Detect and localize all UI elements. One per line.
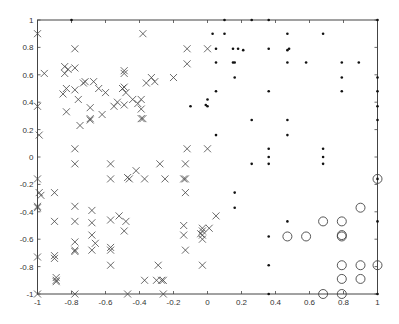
x-tick-label: 0.2 bbox=[236, 298, 248, 307]
circle-marker-icon bbox=[356, 261, 365, 270]
x-marker-icon bbox=[65, 66, 72, 73]
x-marker-icon bbox=[148, 74, 155, 81]
dot-marker-icon bbox=[267, 235, 270, 238]
x-marker-icon bbox=[213, 212, 220, 219]
dot-marker-icon bbox=[242, 49, 245, 52]
x-marker-icon bbox=[71, 218, 78, 225]
x-marker-icon bbox=[139, 30, 146, 37]
dot-marker-icon bbox=[376, 90, 379, 93]
dot-marker-icon bbox=[211, 32, 214, 35]
x-marker-icon bbox=[71, 64, 78, 71]
dot-marker-icon bbox=[267, 163, 270, 166]
y-tick-label: 0.8 bbox=[22, 43, 34, 52]
y-tick-label: 0 bbox=[29, 153, 34, 162]
x-marker-icon bbox=[133, 167, 140, 174]
x-marker-icon bbox=[199, 262, 206, 269]
x-marker-icon bbox=[88, 219, 95, 226]
dot-marker-icon bbox=[233, 191, 236, 194]
x-marker-icon bbox=[182, 175, 189, 182]
x-marker-icon bbox=[121, 101, 128, 108]
x-marker-icon bbox=[71, 160, 78, 167]
x-marker-icon bbox=[51, 189, 58, 196]
x-marker-icon bbox=[184, 45, 191, 52]
circle-marker-icon bbox=[337, 217, 346, 226]
x-tick-label: -0.6 bbox=[99, 298, 113, 307]
y-tick-label: 1 bbox=[29, 16, 34, 25]
dot-marker-icon bbox=[376, 19, 379, 22]
x-marker-icon bbox=[102, 89, 109, 96]
x-marker-icon bbox=[61, 63, 68, 70]
x-marker-icon bbox=[51, 218, 58, 225]
x-marker-icon bbox=[107, 217, 114, 224]
data-markers bbox=[34, 19, 382, 299]
x-marker-icon bbox=[122, 218, 129, 225]
x-tick-label: -0.4 bbox=[133, 298, 147, 307]
dot-marker-icon bbox=[376, 76, 379, 79]
dot-marker-icon bbox=[322, 147, 325, 150]
x-tick-label: 1 bbox=[375, 298, 380, 307]
dot-marker-icon bbox=[376, 105, 379, 108]
x-marker-icon bbox=[206, 225, 213, 232]
x-marker-icon bbox=[36, 132, 43, 139]
dot-marker-icon bbox=[232, 47, 235, 50]
x-marker-icon bbox=[204, 45, 211, 52]
dot-marker-icon bbox=[286, 134, 289, 137]
x-marker-icon bbox=[107, 160, 114, 167]
x-tick-label: -0.2 bbox=[167, 298, 181, 307]
dot-marker-icon bbox=[206, 98, 209, 101]
dot-marker-icon bbox=[376, 119, 379, 122]
dot-marker-icon bbox=[250, 119, 253, 122]
x-marker-icon bbox=[182, 247, 189, 254]
plot-area bbox=[38, 20, 378, 294]
x-marker-icon bbox=[87, 117, 94, 124]
dot-marker-icon bbox=[322, 163, 325, 166]
dot-marker-icon bbox=[286, 61, 289, 64]
x-marker-icon bbox=[204, 145, 211, 152]
dot-marker-icon bbox=[215, 61, 218, 64]
x-marker-icon bbox=[71, 86, 78, 93]
dot-marker-icon bbox=[267, 293, 270, 296]
y-tick-label: -0.6 bbox=[20, 235, 34, 244]
series-class-o bbox=[283, 174, 382, 298]
x-marker-icon bbox=[107, 175, 114, 182]
x-tick-label: -0.8 bbox=[65, 298, 79, 307]
x-marker-icon bbox=[122, 89, 129, 96]
dot-marker-icon bbox=[288, 47, 291, 50]
y-tick-label: -0.2 bbox=[20, 180, 34, 189]
x-tick-label: 0 bbox=[205, 298, 210, 307]
dot-marker-icon bbox=[223, 19, 226, 22]
y-tick-label: -0.4 bbox=[20, 208, 34, 217]
series-class-dot bbox=[70, 19, 379, 296]
x-tick-label: 0.4 bbox=[270, 298, 282, 307]
dot-marker-icon bbox=[189, 105, 192, 108]
x-marker-icon bbox=[71, 203, 78, 210]
dot-marker-icon bbox=[286, 119, 289, 122]
x-tick-label: 0.8 bbox=[338, 298, 350, 307]
x-marker-icon bbox=[139, 115, 146, 122]
dot-marker-icon bbox=[237, 47, 240, 50]
x-marker-icon bbox=[180, 222, 187, 229]
x-marker-icon bbox=[199, 236, 206, 243]
dot-marker-icon bbox=[233, 61, 236, 64]
x-marker-icon bbox=[138, 96, 145, 103]
dot-marker-icon bbox=[286, 220, 289, 223]
x-tick-label: -1 bbox=[34, 298, 42, 307]
x-marker-icon bbox=[107, 262, 114, 269]
x-marker-icon bbox=[180, 175, 187, 182]
dot-marker-icon bbox=[376, 293, 379, 296]
x-marker-icon bbox=[141, 277, 148, 284]
dot-marker-icon bbox=[358, 61, 361, 64]
dot-marker-icon bbox=[206, 105, 209, 108]
y-tick-label: 0.4 bbox=[22, 98, 34, 107]
x-marker-icon bbox=[156, 160, 163, 167]
x-marker-icon bbox=[75, 96, 82, 103]
x-marker-icon bbox=[126, 175, 133, 182]
series-class-x bbox=[34, 30, 220, 297]
dot-marker-icon bbox=[376, 178, 379, 181]
x-marker-icon bbox=[88, 207, 95, 214]
dot-marker-icon bbox=[341, 76, 344, 79]
x-marker-icon bbox=[121, 227, 128, 234]
dot-marker-icon bbox=[250, 19, 253, 22]
dot-marker-icon bbox=[233, 76, 236, 79]
x-marker-icon bbox=[199, 232, 206, 239]
